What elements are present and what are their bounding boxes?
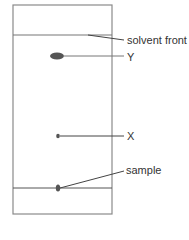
spot-x	[56, 134, 60, 138]
spot-y	[50, 53, 64, 60]
label-y: Y	[127, 51, 134, 63]
label-solvent-front: solvent front	[127, 34, 187, 46]
label-sample: sample	[126, 164, 161, 176]
label-x: X	[127, 130, 134, 142]
leader-solvent-front	[88, 35, 124, 40]
spot-sample	[56, 185, 60, 192]
leader-sample	[60, 171, 124, 188]
